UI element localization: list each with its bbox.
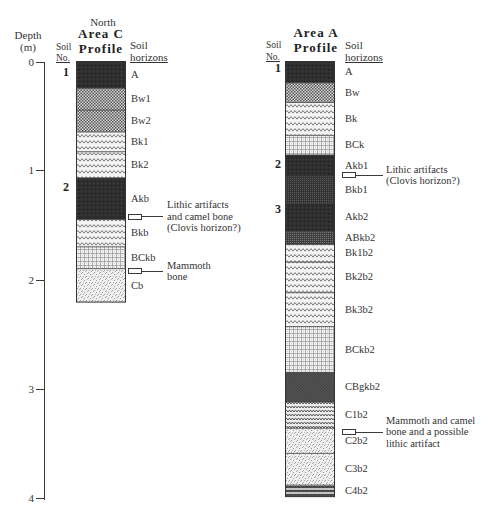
horizon-layer [76,110,126,132]
horizon-label: Bk3b2 [345,304,373,316]
soil-column [285,61,335,497]
horizon-label: ABkb2 [345,232,375,244]
horizon-label: Bk1 [131,136,149,148]
annotation-bracket [342,429,356,435]
horizon-label: A [345,66,353,78]
annotation-leader-line [142,216,163,217]
horizon-layer [285,453,335,485]
annotation-leader-line [356,175,383,176]
horizon-label: C3b2 [345,463,368,475]
soil-profile-figure: Depth (m) 01234 NorthArea CProfileSoilNo… [0,0,491,521]
horizon-layer [285,61,335,83]
soil-horizons-header: horizons [345,51,383,63]
horizon-layer [76,61,126,88]
horizon-label: Akb1 [345,160,368,172]
annotation-text: Lithic artifacts(Clovis horizon?) [386,164,460,187]
annotation-line: Mammoth [167,260,211,272]
annotation-text: Mammothbone [167,260,211,283]
horizon-label: Akb2 [345,211,368,223]
depth-tick [36,280,44,281]
horizon-layer [76,132,126,152]
horizon-layer [76,269,126,303]
soil-number: 2 [63,181,69,193]
depth-tick [36,389,44,390]
annotation-line: Lithic artifacts [386,164,460,176]
profile-subtitle: Profile [79,43,123,55]
annotation-leader-line [142,271,163,272]
horizon-layer [76,178,126,220]
soil-no-header: No. [56,52,70,64]
horizon-layer [285,83,335,103]
soil-horizons-header: Soil [345,39,363,51]
horizon-label: C1b2 [345,409,368,421]
depth-tick [36,62,44,63]
horizon-label: Bw2 [131,115,151,127]
annotation-bracket [128,214,142,220]
annotation-line: Lithic artifacts [167,199,241,211]
horizon-label: Bw [345,87,360,99]
annotation-line: (Clovis horizon?) [386,175,460,187]
horizon-label: Bk [345,113,357,125]
soil-number: 3 [275,203,281,215]
horizon-layer [285,177,335,203]
horizon-layer [76,219,126,246]
horizon-label: C4b2 [345,485,368,497]
horizon-layer [285,293,335,327]
annotation-line: bone and a possible [386,426,475,438]
annotation-line: (Clovis horizon?) [167,222,241,234]
annotation-line: lithic artifact [386,438,475,450]
horizon-layer [76,88,126,110]
depth-axis-title: Depth [15,29,42,41]
horizon-label: BCkb2 [345,344,375,356]
soil-horizons-header: horizons [130,51,168,63]
depth-axis-unit: (m) [20,41,36,53]
annotation-line: Mammoth and camel [386,415,475,427]
horizon-layer [285,232,335,245]
depth-tick-label: 1 [20,164,34,176]
horizon-layer [285,485,335,497]
annotation-bracket [128,268,142,274]
soil-number: 2 [275,158,281,170]
horizon-label: BCkb [131,252,156,264]
horizon-label: Bk2 [131,159,149,171]
horizon-layer [285,327,335,373]
profile-subtitle: Profile [294,42,338,54]
soil-number: 1 [275,62,281,74]
annotation-text: Lithic artifactsand camel bone(Clovis ho… [167,199,241,234]
horizon-layer [285,373,335,403]
soil-column [76,61,126,303]
horizon-layer [285,402,335,428]
horizon-label: Akb [131,193,149,205]
horizon-label: C2b2 [345,435,368,447]
annotation-leader-line [356,432,383,433]
profile-title: Area A [293,27,338,39]
annotation-text: Mammoth and camelbone and a possiblelith… [386,415,475,450]
soil-no-header: Soil [266,39,281,51]
soil-number: 1 [63,66,69,78]
horizon-layer [285,428,335,453]
horizon-label: Bk2b2 [345,271,373,283]
horizon-layer [285,203,335,231]
soil-horizons-header: Soil [130,39,148,51]
horizon-layer [285,262,335,293]
horizon-label: Bk1b2 [345,247,373,259]
depth-tick-label: 0 [20,56,34,68]
annotation-line: bone [167,271,211,283]
horizon-label: Cb [131,280,143,292]
horizon-label: A [131,69,139,81]
horizon-layer [76,152,126,178]
horizon-layer [285,135,335,155]
depth-tick [36,498,44,499]
horizon-layer [76,247,126,269]
horizon-label: CBgkb2 [345,381,380,393]
depth-tick-label: 2 [20,274,34,286]
profile-title: Area C [78,28,124,40]
horizon-layer [285,103,335,136]
depth-axis-line [44,62,45,500]
horizon-label: Bkb1 [345,184,368,196]
horizon-layer [285,155,335,177]
horizon-label: Bw1 [131,93,151,105]
depth-tick [36,170,44,171]
depth-tick-label: 3 [20,383,34,395]
depth-tick-label: 4 [20,492,34,504]
